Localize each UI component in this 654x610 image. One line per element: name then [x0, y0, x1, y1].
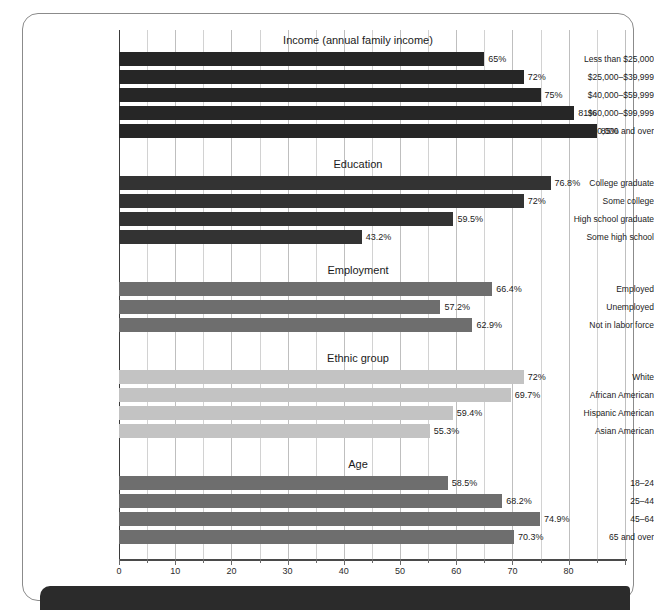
- x-axis-tick: [569, 559, 570, 565]
- bar: [119, 70, 524, 84]
- category-label: Some college: [541, 196, 654, 206]
- bar-value-label: 75%: [545, 89, 563, 101]
- chart-row: African American69.7%: [0, 388, 654, 402]
- chart-row: High school graduate59.5%: [0, 212, 654, 226]
- x-axis-tick: [119, 559, 120, 565]
- bar: [119, 512, 540, 526]
- category-label: Less than $25,000: [541, 54, 654, 64]
- x-axis-tick-label: 20: [226, 566, 236, 576]
- bar: [119, 388, 511, 402]
- x-axis-tick: [484, 559, 485, 563]
- bar-value-label: 72%: [528, 71, 546, 83]
- bar-value-label: 55.3%: [434, 425, 460, 437]
- x-axis-tick: [203, 559, 204, 563]
- chart-row: Not in labor force62.9%: [0, 318, 654, 332]
- chart-row: 65 and over70.3%: [0, 530, 654, 544]
- bar-value-label: 43.2%: [366, 231, 392, 243]
- x-axis-tick: [428, 559, 429, 563]
- category-label: Asian American: [541, 426, 654, 436]
- chart-row: White72%: [0, 370, 654, 384]
- chart-row: $60,000–$99,99981%: [0, 106, 654, 120]
- category-label: Some high school: [541, 232, 654, 242]
- section-title-ethnic: Ethnic group: [119, 353, 597, 364]
- bar: [119, 370, 524, 384]
- bar-value-label: 68.2%: [506, 495, 532, 507]
- x-axis-tick-label: 40: [339, 566, 349, 576]
- category-label: $25,000–$39,999: [541, 72, 654, 82]
- bar-value-label: 85%: [601, 125, 619, 137]
- bar-value-label: 65%: [488, 53, 506, 65]
- chart-row: $25,000–$39,99972%: [0, 70, 654, 84]
- bar-value-label: 70.3%: [518, 531, 544, 543]
- section-title-income: Income (annual family income): [119, 35, 597, 46]
- x-axis-tick: [541, 559, 542, 563]
- section-title-employment: Employment: [119, 265, 597, 276]
- bar-value-label: 57.2%: [444, 301, 470, 313]
- bar: [119, 106, 574, 120]
- chart-row: College graduate76.8%: [0, 176, 654, 190]
- category-label: Employed: [541, 284, 654, 294]
- x-axis-tick: [512, 559, 513, 565]
- x-axis-tick: [372, 559, 373, 563]
- category-label: Hispanic American: [541, 408, 654, 418]
- bar: [119, 424, 430, 438]
- chart-row: $40,000–$59,99975%: [0, 88, 654, 102]
- chart-row: Some college72%: [0, 194, 654, 208]
- x-axis-tick-label: 60: [451, 566, 461, 576]
- x-axis-tick-label: 0: [116, 566, 121, 576]
- x-axis-tick: [260, 559, 261, 563]
- x-axis-tick: [147, 559, 148, 563]
- chart-row: 25–4468.2%: [0, 494, 654, 508]
- chart-row: Hispanic American59.4%: [0, 406, 654, 420]
- chart-page: 01020304050607080 Income (annual family …: [0, 0, 654, 610]
- bar: [119, 88, 541, 102]
- bar: [119, 530, 514, 544]
- category-label: African American: [541, 390, 654, 400]
- bar-value-label: 62.9%: [476, 319, 502, 331]
- x-axis-tick-label: 50: [395, 566, 405, 576]
- bar: [119, 176, 551, 190]
- chart-row: Asian American55.3%: [0, 424, 654, 438]
- chart-row: Some high school43.2%: [0, 230, 654, 244]
- bar-value-label: 81%: [578, 107, 596, 119]
- x-axis-tick: [597, 559, 598, 563]
- category-label: 18–24: [541, 478, 654, 488]
- category-label: 65 and over: [541, 532, 654, 542]
- bar: [119, 300, 440, 314]
- category-label: White: [541, 372, 654, 382]
- bar-value-label: 72%: [528, 195, 546, 207]
- category-label: 25–44: [541, 496, 654, 506]
- bar: [119, 52, 484, 66]
- x-axis-tick: [456, 559, 457, 565]
- bar-value-label: 74.9%: [544, 513, 570, 525]
- bar: [119, 230, 362, 244]
- bar-value-label: 59.4%: [457, 407, 483, 419]
- grouped-bar-chart: 01020304050607080 Income (annual family …: [0, 0, 654, 610]
- bar: [119, 476, 448, 490]
- chart-row: $100,000 and over85%: [0, 124, 654, 138]
- bar: [119, 124, 597, 138]
- chart-row: 18–2458.5%: [0, 476, 654, 490]
- bar-value-label: 58.5%: [452, 477, 478, 489]
- x-axis-tick-label: 80: [564, 566, 574, 576]
- bar: [119, 282, 492, 296]
- section-title-education: Education: [119, 159, 597, 170]
- category-label: Not in labor force: [541, 320, 654, 330]
- x-axis-tick: [316, 559, 317, 563]
- x-axis-tick-label: 30: [283, 566, 293, 576]
- category-label: High school graduate: [541, 214, 654, 224]
- x-axis-tick-label: 70: [507, 566, 517, 576]
- chart-row: Less than $25,00065%: [0, 52, 654, 66]
- bar: [119, 494, 502, 508]
- bar: [119, 318, 472, 332]
- chart-row: Employed66.4%: [0, 282, 654, 296]
- x-axis-tick: [344, 559, 345, 565]
- bar-value-label: 76.8%: [555, 177, 581, 189]
- bar-value-label: 66.4%: [496, 283, 522, 295]
- bar-value-label: 69.7%: [515, 389, 541, 401]
- bar: [119, 194, 524, 208]
- x-axis-tick: [231, 559, 232, 565]
- x-axis-tick: [175, 559, 176, 565]
- chart-row: Unemployed57.2%: [0, 300, 654, 314]
- bar: [119, 212, 453, 226]
